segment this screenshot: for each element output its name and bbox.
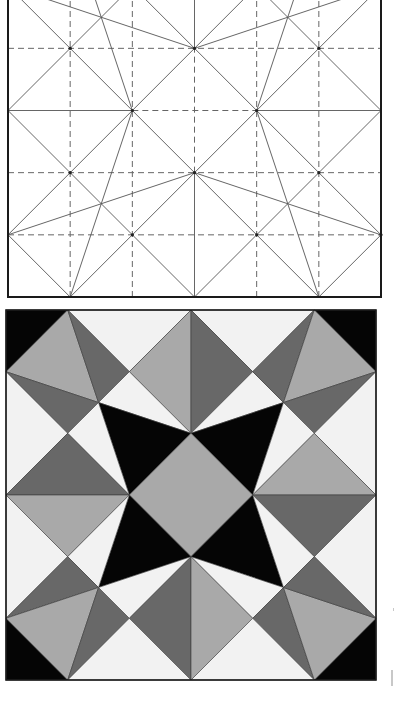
crease-vertex — [69, 171, 72, 174]
mountain-fold-line — [132, 48, 194, 110]
mountain-fold-line — [70, 111, 132, 298]
mountain-fold-line — [70, 0, 132, 111]
crease-pattern-diagram — [0, 0, 399, 300]
crease-vertex — [255, 233, 258, 236]
folded-pattern-svg — [0, 306, 399, 703]
folded-pattern-diagram — [0, 306, 399, 703]
mountain-fold-line — [132, 0, 194, 48]
mountain-fold-line — [319, 0, 381, 48]
mountain-fold-line — [8, 235, 70, 297]
crease-vertex — [131, 233, 134, 236]
crease-vertex — [255, 109, 258, 112]
crease-vertex — [69, 47, 72, 50]
crease-vertex — [317, 47, 320, 50]
crease-vertex — [193, 47, 196, 50]
mountain-fold-line — [319, 173, 381, 235]
mountain-fold-line — [8, 0, 195, 48]
mountain-fold-line — [257, 0, 319, 111]
mountain-fold-line — [132, 235, 194, 297]
crease-vertex — [131, 109, 134, 112]
mountain-fold-line — [257, 48, 319, 110]
crease-vertex — [193, 171, 196, 174]
mountain-fold-line — [195, 48, 257, 110]
mountain-fold-line — [70, 111, 132, 173]
mountain-fold-line — [132, 111, 194, 173]
mountain-fold-line — [195, 0, 382, 48]
scan-mark — [391, 670, 393, 686]
mountain-fold-line — [8, 173, 70, 235]
mountain-fold-line — [8, 0, 70, 48]
mountain-fold-line — [319, 48, 381, 110]
mountain-fold-line — [70, 235, 132, 297]
mountain-fold-line — [319, 235, 381, 297]
mountain-fold-line — [257, 111, 319, 298]
mountain-fold-line — [8, 111, 70, 173]
mountain-fold-line — [257, 235, 319, 297]
mountain-fold-line — [8, 48, 70, 110]
mountain-fold-line — [70, 48, 132, 110]
mountain-fold-line — [195, 0, 257, 48]
mountain-fold-line — [257, 111, 319, 173]
crease-pattern-svg — [0, 0, 399, 300]
mountain-fold-line — [319, 111, 381, 173]
mountain-fold-line — [195, 173, 257, 235]
scan-mark — [393, 608, 394, 611]
mountain-fold-line — [195, 235, 257, 297]
mountain-fold-line — [195, 111, 257, 173]
crease-vertex — [317, 171, 320, 174]
mountain-fold-line — [132, 173, 194, 235]
